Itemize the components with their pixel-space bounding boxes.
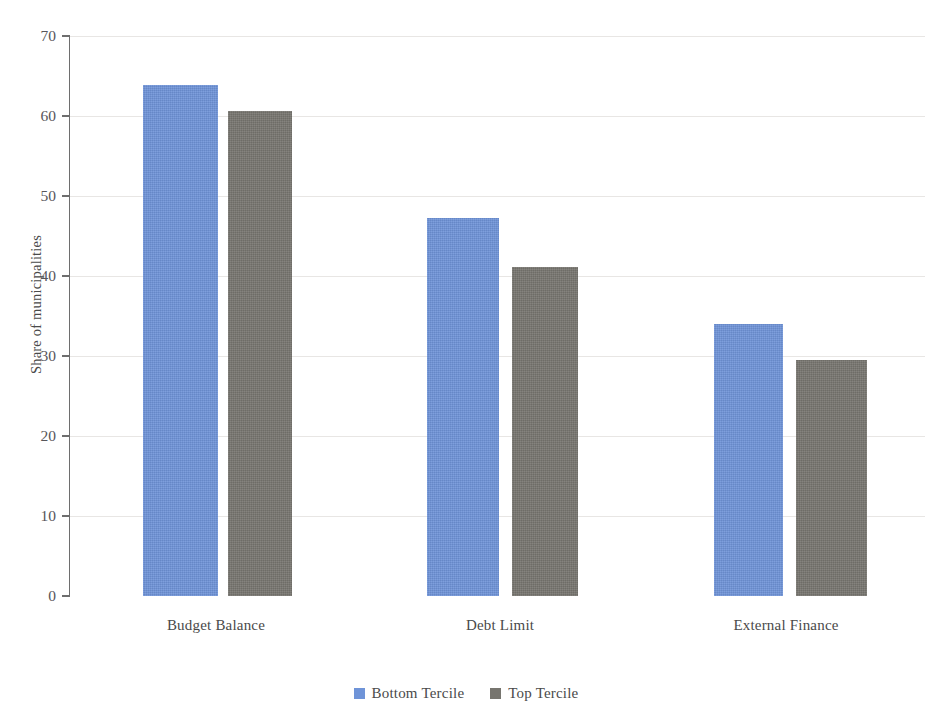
- y-axis-tick: [62, 595, 70, 596]
- legend: Bottom Tercile Top Tercile: [0, 685, 932, 702]
- y-axis-tick-label: 10: [12, 508, 56, 524]
- bar: [512, 267, 578, 596]
- plot-area: [70, 36, 925, 596]
- y-axis-title: Share of municipalities: [28, 185, 45, 425]
- bar-chart: Share of municipalities 010203040506070 …: [0, 0, 932, 728]
- legend-item-bottom-tercile[interactable]: Bottom Tercile: [354, 685, 465, 702]
- y-axis-tick-label: 0: [12, 588, 56, 604]
- bar: [228, 111, 292, 596]
- bar: [796, 360, 867, 596]
- legend-label-top-tercile: Top Tercile: [508, 685, 578, 702]
- y-axis-tick: [62, 435, 70, 436]
- y-axis-tick: [62, 355, 70, 356]
- bar: [143, 85, 218, 596]
- bar: [427, 218, 499, 596]
- y-axis-tick: [62, 515, 70, 516]
- legend-swatch-icon-top-tercile: [490, 688, 501, 699]
- y-axis-tick: [62, 35, 70, 36]
- x-axis-category-label: Budget Balance: [106, 617, 326, 634]
- y-axis-tick-label: 70: [12, 28, 56, 44]
- x-axis-category-label: External Finance: [676, 617, 896, 634]
- x-axis-category-label: Debt Limit: [390, 617, 610, 634]
- y-axis-tick-label: 20: [12, 428, 56, 444]
- y-axis-tick-label: 40: [12, 268, 56, 284]
- y-axis-tick-label: 30: [12, 348, 56, 364]
- y-axis-tick-label: 50: [12, 188, 56, 204]
- legend-swatch-icon-bottom-tercile: [354, 688, 365, 699]
- y-axis-tick-label: 60: [12, 108, 56, 124]
- y-axis-tick: [62, 275, 70, 276]
- y-axis-tick: [62, 195, 70, 196]
- legend-item-top-tercile[interactable]: Top Tercile: [490, 685, 578, 702]
- bar: [714, 324, 783, 596]
- y-axis-tick: [62, 115, 70, 116]
- legend-label-bottom-tercile: Bottom Tercile: [372, 685, 465, 702]
